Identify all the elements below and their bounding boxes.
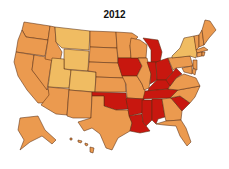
state-alaska xyxy=(18,116,56,150)
state-colorado xyxy=(69,70,96,92)
state-rhode-island xyxy=(202,52,205,56)
state-maine xyxy=(202,20,216,45)
state-connecticut xyxy=(197,52,202,57)
state-arkansas xyxy=(126,98,144,116)
state-north-dakota xyxy=(90,31,117,48)
state-wyoming xyxy=(64,49,89,71)
state-florida xyxy=(156,120,191,146)
us-map xyxy=(0,0,229,169)
state-new-mexico xyxy=(67,90,92,118)
state-hawaii xyxy=(70,138,94,153)
state-montana xyxy=(55,27,90,50)
state-kansas xyxy=(95,77,126,92)
state-wisconsin xyxy=(130,38,147,58)
state-mississippi xyxy=(142,100,152,126)
state-new-york xyxy=(172,36,197,58)
state-south-dakota xyxy=(89,47,118,63)
